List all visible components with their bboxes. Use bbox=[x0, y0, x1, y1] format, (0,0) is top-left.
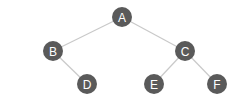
tree-node-f: F bbox=[207, 74, 227, 94]
tree-node-d: D bbox=[77, 74, 97, 94]
node-label: A bbox=[118, 11, 126, 25]
tree-node-b: B bbox=[43, 41, 63, 61]
node-label: C bbox=[181, 45, 190, 59]
edge-a-b bbox=[53, 17, 122, 51]
nodes-layer: A B C D E F bbox=[43, 7, 227, 94]
node-label: D bbox=[83, 78, 92, 92]
node-label: F bbox=[213, 78, 220, 92]
tree-canvas: A B C D E F bbox=[0, 0, 237, 102]
node-label: B bbox=[49, 45, 57, 59]
tree-diagram: A B C D E F bbox=[0, 0, 237, 102]
tree-node-e: E bbox=[144, 74, 164, 94]
node-label: E bbox=[150, 78, 158, 92]
tree-node-c: C bbox=[175, 41, 195, 61]
tree-node-a: A bbox=[112, 7, 132, 27]
edge-a-c bbox=[122, 17, 185, 51]
